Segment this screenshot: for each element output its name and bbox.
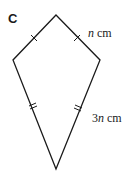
long-side-label: 3n cm <box>92 111 122 125</box>
short-side-label: n cm <box>88 26 112 40</box>
kite-diagram: C n cm 3n cm <box>0 0 135 176</box>
kite-outline <box>13 15 100 169</box>
part-label: C <box>8 11 18 26</box>
